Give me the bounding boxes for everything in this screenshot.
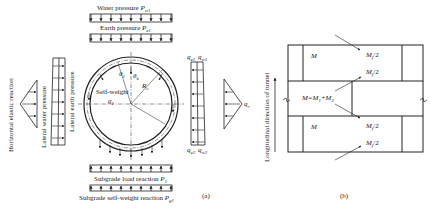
qe2-label: qe2: [187, 146, 195, 155]
subgrade-self-weight-reaction-label: Subgrade self-weight reaction Pg1: [79, 194, 174, 203]
subgrade-load-reaction-label: Subgrade load reaction P1: [94, 175, 167, 184]
right-lateral-pressure-load: [191, 62, 205, 145]
earth-pressure-label: Earth pressure Pe1: [100, 24, 151, 33]
caption-a: (a): [202, 192, 210, 200]
horizontal-elastic-reaction-label: Horizontal elastic reaction: [7, 78, 15, 152]
qw1-label: qw1: [198, 53, 207, 62]
g1-label: g1: [108, 97, 114, 106]
caption-b: (b): [340, 192, 348, 200]
self-weight-label: Self-weight: [96, 88, 129, 96]
top-ring-mf-lower-label: Mf/2: [366, 68, 379, 77]
bottom-ring-mf-lower-label: Mf/2: [366, 139, 379, 148]
lateral-earth-pressure-label: Lateral earth pressure: [68, 71, 76, 132]
horizontal-elastic-reaction-load: [20, 80, 37, 128]
radius-label: Rc: [142, 82, 149, 91]
top-ring-mf-upper-label: Mf/2: [366, 51, 379, 60]
theta1-label: θ1: [119, 70, 125, 79]
water-pressure-label: Water pressure Pw1: [97, 4, 151, 13]
lateral-water-pressure-label: Lateral water pressure: [40, 86, 48, 148]
bottom-ring-mf-upper-label: Mf/2: [366, 122, 379, 131]
earth-pressure-load: [90, 34, 172, 42]
longitudinal-direction-label: Longitudinal direction of tunnel: [263, 72, 271, 162]
moment-arrows: [335, 35, 361, 160]
lateral-pressure-load: [51, 58, 65, 145]
top-ring-M-label: M: [311, 52, 317, 60]
qr-label: qr: [244, 100, 249, 109]
bottom-ring-M-label: M: [311, 123, 317, 131]
qw2-label: qw2: [198, 146, 207, 155]
qe1-label: qe1: [187, 53, 195, 62]
tunnel-ring: [78, 52, 184, 160]
diagram-canvas: [0, 0, 430, 211]
water-pressure-load: [90, 14, 172, 22]
thetak-label: θk: [133, 72, 139, 81]
middle-ring-equation-label: M=M1+M2: [302, 94, 334, 103]
right-elastic-reaction-load: [224, 79, 242, 129]
